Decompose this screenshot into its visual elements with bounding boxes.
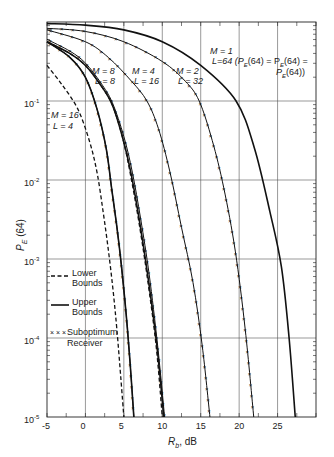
x-marker: × — [138, 88, 142, 94]
x-marker: × — [163, 60, 167, 66]
x-marker: × — [93, 100, 97, 106]
curve-suboptimum — [47, 30, 210, 417]
y-tick-10-2: 10-2 — [24, 175, 39, 188]
x-marker: × — [128, 362, 132, 368]
x-marker: × — [148, 281, 152, 287]
x-marker: × — [182, 234, 186, 240]
x-marker: × — [161, 401, 165, 407]
x-marker: × — [186, 256, 190, 262]
x-marker: × — [123, 296, 127, 302]
x-marker: × — [228, 218, 232, 224]
annotation-m16: M = 16 — [51, 110, 79, 120]
y-label-P: P — [15, 244, 26, 251]
x-marker: × — [104, 143, 108, 149]
x-marker: × — [137, 205, 141, 211]
x-marker: × — [124, 40, 128, 46]
x-marker: × — [194, 91, 198, 97]
x-marker: × — [145, 259, 149, 265]
x-marker: × — [59, 31, 63, 37]
x-marker: × — [134, 44, 138, 50]
y-tick-10-5: 10-5 — [24, 412, 39, 425]
x-marker: × — [244, 338, 248, 344]
x-marker: × — [113, 208, 117, 214]
x-marker: × — [127, 340, 131, 346]
x-marker: × — [144, 49, 148, 55]
x-marker: × — [119, 263, 123, 269]
x-marker: × — [114, 36, 118, 42]
x-marker: × — [108, 56, 112, 62]
x-marker: × — [144, 97, 148, 103]
x-marker: × — [81, 70, 85, 76]
x-marker: × — [123, 71, 127, 77]
annotation-eq4: (64)) — [286, 67, 305, 77]
x-marker: × — [232, 240, 236, 246]
x-marker: × — [110, 187, 114, 193]
x-marker: × — [175, 202, 179, 208]
x-marker: × — [203, 364, 207, 370]
curve-suboptimum — [47, 28, 254, 417]
x-marker: × — [155, 335, 159, 341]
x-marker: × — [200, 343, 204, 349]
x-marker: × — [196, 310, 200, 316]
annotation-pe64: PE(64)) — [276, 67, 305, 81]
x-marker: × — [207, 408, 211, 414]
x-marker: × — [235, 262, 239, 268]
x-marker: × — [149, 106, 153, 112]
x-marker: × — [130, 384, 134, 390]
x-tick-0: 0 — [80, 421, 85, 431]
x-marker: × — [170, 180, 174, 186]
x-marker: × — [67, 53, 71, 59]
x-tick-25: 25 — [273, 421, 283, 431]
x-marker: × — [204, 375, 208, 381]
x-marker: × — [122, 285, 126, 291]
curve-upper — [47, 24, 295, 417]
x-marker: × — [129, 161, 133, 167]
x-marker: × — [133, 183, 137, 189]
x-marker: × — [173, 191, 177, 197]
legend-sub-1: Suboptimum — [67, 327, 118, 338]
x-marker: × — [159, 379, 163, 385]
x-marker: × — [248, 371, 252, 377]
x-marker: × — [127, 351, 131, 357]
x-marker: × — [199, 332, 203, 338]
x-marker: × — [135, 194, 139, 200]
legend-lower-1: Lower — [72, 268, 103, 278]
x-marker: × — [240, 295, 244, 301]
annotation-m4: M = 4 — [132, 66, 155, 76]
x-marker: × — [131, 172, 135, 178]
x-marker: × — [77, 54, 81, 60]
legend-x-symbol: × — [62, 329, 66, 336]
annotation-l64-text: L=64 (P — [212, 56, 244, 66]
x-marker: × — [243, 327, 247, 333]
x-marker: × — [154, 324, 158, 330]
x-marker: × — [206, 122, 210, 128]
x-marker: × — [85, 62, 89, 68]
x-marker: × — [247, 360, 251, 366]
x-marker: × — [226, 208, 230, 214]
x-marker: × — [249, 382, 253, 388]
x-marker: × — [107, 165, 111, 171]
x-marker: × — [191, 277, 195, 283]
x-marker: × — [103, 33, 107, 39]
x-marker: × — [108, 176, 112, 182]
x-marker: × — [246, 349, 250, 355]
x-marker: × — [156, 346, 160, 352]
x-tick-20: 20 — [234, 421, 244, 431]
y-label-rest: (64) — [15, 219, 26, 240]
curve-upper — [47, 42, 134, 417]
x-marker: × — [129, 373, 133, 379]
x-marker: × — [116, 63, 120, 69]
x-marker: × — [82, 28, 86, 34]
x-marker: × — [125, 318, 129, 324]
x-marker: × — [202, 353, 206, 359]
x-tick-15: 15 — [196, 421, 206, 431]
x-marker: × — [80, 38, 84, 44]
x-marker: × — [202, 112, 206, 118]
x-marker: × — [102, 132, 106, 138]
x-marker: × — [114, 219, 118, 225]
annotation-m2: M = 2 — [176, 66, 199, 76]
x-marker: × — [106, 154, 110, 160]
x-label-unit: , dB — [179, 436, 197, 447]
x-marker: × — [117, 241, 121, 247]
x-marker: × — [241, 306, 245, 312]
